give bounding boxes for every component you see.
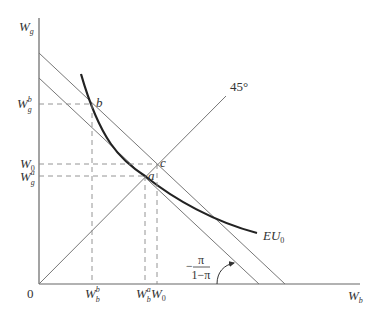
x-axis-label: Wb [348,288,363,305]
origin-label: 0 [27,286,34,301]
point-a-label: a [148,168,155,183]
diagram-canvas: Wg Wb 0 Wbg W0 Wag Wbb Wab W0 b c a EU0 … [0,0,379,318]
slope-arc-icon [217,263,234,284]
guide-lines [39,104,157,284]
svg-text:π: π [198,253,204,267]
point-c-label: c [160,155,166,170]
y-axis-label: Wg [19,19,34,36]
x-tick-wb-a: Wab [136,285,151,304]
slope-label: − π 1−π [186,253,210,282]
certainty-line-label: 45° [230,79,248,94]
curve-eu0-label: EU0 [262,228,284,245]
x-tick-wb-b: Wbb [85,285,100,304]
diagram-svg: Wg Wb 0 Wbg W0 Wag Wbb Wab W0 b c a EU0 … [0,0,379,318]
y-tick-wg-b: Wbg [17,95,32,114]
point-b-label: b [96,95,103,110]
svg-text:1−π: 1−π [192,268,211,282]
y-tick-wg-a: Wag [20,168,35,187]
x-tick-w0: W0 [151,286,166,303]
